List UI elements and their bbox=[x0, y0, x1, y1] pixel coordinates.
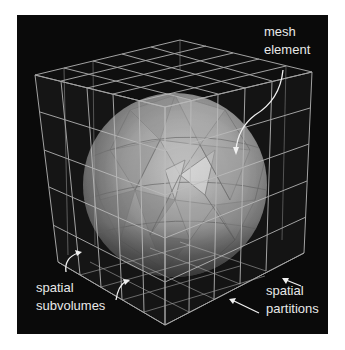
label-spatial-partitions-line1: spatial bbox=[266, 283, 304, 298]
label-mesh-element-line2: element bbox=[264, 42, 311, 57]
label-mesh-element-line1: mesh bbox=[264, 24, 296, 39]
label-spatial-subvolumes-line1: spatial bbox=[36, 280, 74, 295]
label-spatial-partitions-line2: partitions bbox=[266, 301, 319, 316]
label-spatial-subvolumes-line2: subvolumes bbox=[36, 298, 106, 313]
spatial-partition-diagram: mesh element spatial subvolumes spatial … bbox=[0, 0, 345, 350]
